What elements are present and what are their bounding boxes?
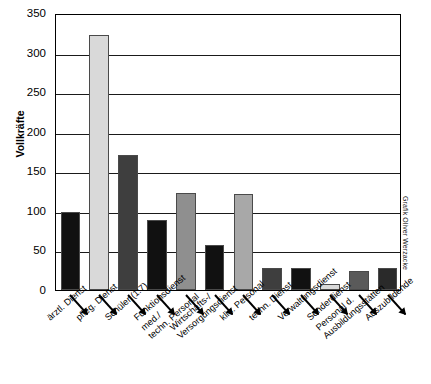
bar bbox=[118, 155, 138, 290]
plot-area bbox=[55, 14, 401, 291]
bar-series bbox=[56, 15, 400, 290]
bar-chart: Vollkräfte 350300250200150100500 ärztl. … bbox=[0, 0, 431, 384]
y-tick-label: 350 bbox=[27, 8, 46, 20]
bar bbox=[234, 194, 254, 290]
credit-text: Grafik Oliver Werzacke bbox=[401, 196, 409, 270]
y-tick-label: 50 bbox=[33, 245, 46, 257]
y-tick-label: 250 bbox=[27, 87, 46, 99]
y-tick-label: 100 bbox=[27, 206, 46, 218]
y-tick-label: 200 bbox=[27, 127, 46, 139]
bar bbox=[61, 212, 81, 290]
category-axis-labels: ärztl. Dienstpfleg. DienstSchüler (1:7)F… bbox=[0, 291, 431, 384]
y-tick-label: 300 bbox=[27, 48, 46, 60]
bar bbox=[89, 35, 109, 290]
y-tick-label: 150 bbox=[27, 166, 46, 178]
bar bbox=[147, 220, 167, 290]
